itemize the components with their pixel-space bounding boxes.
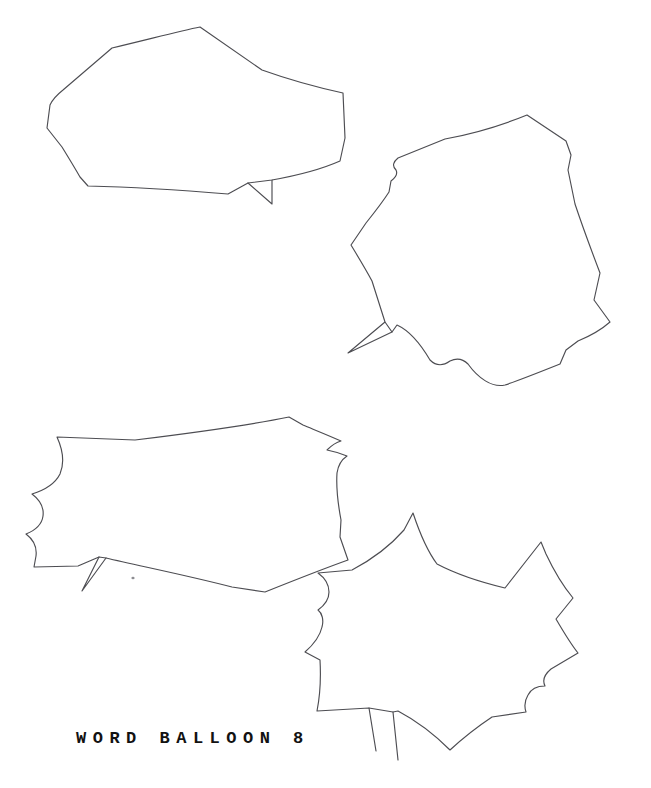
balloon-3 bbox=[26, 417, 348, 592]
balloon-3-outline bbox=[26, 417, 348, 592]
word-balloon-illustration bbox=[0, 0, 651, 788]
caption-text: WORD BALLOON 8 bbox=[76, 729, 310, 749]
ink-speck bbox=[131, 577, 134, 579]
artboard: WORD BALLOON 8 bbox=[0, 0, 651, 788]
